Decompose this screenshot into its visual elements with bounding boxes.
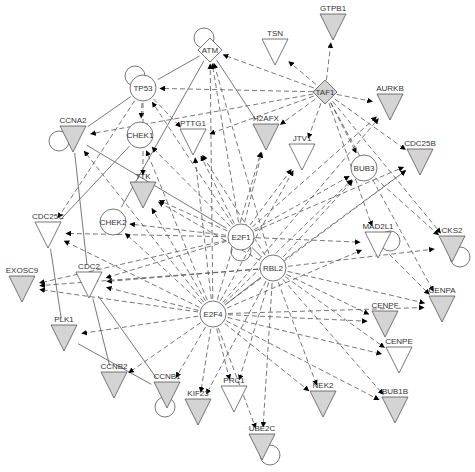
edge-e2f4-bub1b [226,321,379,400]
edge-taf1-aurkb [337,94,373,101]
node-gtpb1[interactable]: GTPB1 [320,4,347,40]
triangle-node-shape [130,182,156,208]
node-e2f1[interactable]: E2F1 [228,224,254,250]
node-aurkb[interactable]: AURKB [376,84,404,120]
triangle-node-shape [221,386,247,412]
node-label: CCNA2 [59,116,87,125]
node-mad2l1[interactable]: MAD2L1 [362,222,394,258]
node-taf1[interactable]: TAF1 [313,80,337,104]
edge-e2f1-rbl2 [252,247,261,256]
triangle-node-shape [386,347,412,373]
node-ube2c[interactable]: UBE2C [249,424,276,460]
edge-chek1-cdc25c [60,146,129,220]
node-label: CENPA [429,286,457,295]
node-chek1[interactable]: CHEK1 [127,122,154,148]
edge-e2f4-ccnb2 [129,323,201,373]
node-ccnb1[interactable]: CCNB1 [153,372,181,408]
node-cenpe[interactable]: CENPE [385,337,413,373]
node-label: CDC2 [78,262,100,271]
node-label: TAF1 [316,88,336,97]
node-e2f4[interactable]: E2F4 [200,301,226,327]
edge-e2f4-ttk [152,209,206,301]
edge-rbl2-exosc9 [40,269,258,286]
node-label: MAD2L1 [362,222,394,231]
node-cdc25b[interactable]: CDC25B [404,139,436,175]
node-rbl2[interactable]: RBL2 [260,255,286,281]
triangle-node-shape [35,222,61,248]
node-ccna2[interactable]: CCNA2 [59,116,87,152]
node-label: PTTG1 [180,119,206,128]
node-ttk[interactable]: TTK [130,172,156,208]
node-cdc2[interactable]: CDC2 [76,262,102,298]
network-diagram: GTPB1TSNATMTAF1TP53AURKBCCNA2CHEK1PTTG1H… [0,0,475,472]
edge-e2f4-chek2 [126,234,203,304]
node-tsn[interactable]: TSN [262,29,288,65]
node-bub3[interactable]: BUB3 [351,155,377,181]
triangle-node-shape [51,325,77,351]
node-plk1[interactable]: PLK1 [51,315,77,351]
node-label: KIF23 [187,389,209,398]
node-cenpf[interactable]: CENPF [371,301,398,337]
node-label: JTV1 [293,134,312,143]
node-chek2[interactable]: CHEK2 [100,209,127,235]
edge-taf1-cenpa [331,103,434,292]
node-nek2[interactable]: NEK2 [310,381,336,417]
edge-taf1-h2afx [281,99,316,124]
edge-e2f4-cenpe [228,318,382,354]
node-label: CKS2 [442,226,463,235]
node-label: PLK1 [54,315,74,324]
node-label: CENPE [385,337,413,346]
edge-rbl2-prc1 [239,282,269,379]
node-label: BUB1B [382,387,408,396]
node-atm[interactable]: ATM [198,38,222,62]
edge-tp53-ccna2 [88,97,131,127]
node-kif23[interactable]: KIF23 [185,389,211,425]
node-cdc25c[interactable]: CDC25C [32,212,64,248]
node-jtv1[interactable]: JTV1 [289,134,315,170]
triangle-node-shape [76,272,102,298]
node-label: TP53 [133,84,153,93]
edge-cdc25c-plk1 [51,249,62,318]
edge-taf1-jtv1 [308,103,321,138]
triangle-node-shape [101,372,127,398]
node-label: PRC1 [223,376,245,385]
edge-e2f1-cdc25c [66,233,226,236]
edge-e2f1-exosc9 [40,240,227,283]
edge-e2f4-exosc9 [40,290,198,312]
nodes-layer: GTPB1TSNATMTAF1TP53AURKBCCNA2CHEK1PTTG1H… [6,4,465,460]
triangle-node-shape [185,399,211,425]
node-label: E2F1 [231,233,251,242]
edge-ccna2-cdc2 [75,153,87,265]
triangle-node-shape [429,296,455,322]
node-label: EXOSC9 [6,266,39,275]
node-label: AURKB [376,84,404,93]
node-tp53[interactable]: TP53 [130,75,156,101]
edge-e2f1-chek1 [152,147,230,226]
edge-e2f4-cdc2 [107,287,199,310]
edge-e2f1-mad2l1 [256,238,360,243]
edge-tp53-pttg1 [153,99,180,127]
node-ccnb2[interactable]: CCNB2 [100,362,128,398]
edge-e2f4-kif23 [201,329,211,392]
edge-rbl2-cenpe [285,277,384,348]
triangle-node-shape [372,311,398,337]
edge-rbl2-cenpa [288,271,425,303]
edge-e2f1-ttk [159,200,227,231]
edge-e2f1-jtv1 [250,169,291,225]
node-cenpa[interactable]: CENPA [429,286,457,322]
triangle-node-shape [180,129,206,155]
edge-taf1-tp53 [160,88,313,91]
node-h2afx[interactable]: H2AFX [253,114,280,150]
triangle-node-shape [253,124,279,150]
node-label: RBL2 [263,264,284,273]
node-prc1[interactable]: PRC1 [221,376,247,412]
node-bub1b[interactable]: BUB1B [382,387,408,423]
edge-e2f1-h2afx [245,153,262,223]
node-label: CENPF [371,301,398,310]
node-exosc9[interactable]: EXOSC9 [6,266,39,302]
node-label: NEK2 [313,381,334,390]
edge-e2f4-pttg1 [195,158,211,299]
edge-e2f4-ccnb1 [176,327,205,377]
node-label: BUB3 [354,164,375,173]
node-cks2[interactable]: CKS2 [439,226,465,262]
